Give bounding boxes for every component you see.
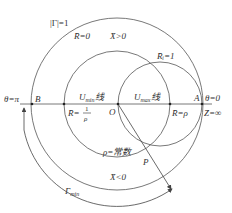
label-rho-constant: ρ=常数 [102,147,132,157]
label-z-inf: Z̄=∞ [204,108,222,118]
label-point-p: P [142,157,149,167]
label-x-neg: X̄<0 [109,172,127,182]
diagram-canvas: |Γ|=1 R̄=0 X̄>0 R̄ᵢ=1 θ=π B Umin线 Umax线 … [0,0,232,213]
label-point-o: O [109,107,116,117]
label-r-inv-den: ρ [83,115,88,123]
point-a-dot [201,103,204,106]
label-r-zero: R̄=0 [73,31,91,41]
label-gamma-min: Γmin [64,186,79,197]
label-gamma-unit: |Γ|=1 [50,18,68,28]
label-r-one: R̄ᵢ=1 [156,51,175,61]
label-u-max: Umax线 [134,92,161,103]
label-point-b: B [35,94,41,104]
point-b-dot [31,103,34,106]
point-rho-dot [169,103,172,106]
label-u-min: Umin线 [79,92,105,103]
label-point-a: A [193,93,200,103]
label-theta-pi: θ=π [4,94,19,104]
label-r-inv-rho: R̄= [67,108,80,118]
label-r-rho: R̄=ρ [171,108,189,118]
point-inv-rho-dot [63,103,66,106]
smith-chart-diagram: |Γ|=1 R̄=0 X̄>0 R̄ᵢ=1 θ=π B Umin线 Umax线 … [0,0,232,213]
point-o-dot [117,103,120,106]
label-x-pos: X̄>0 [109,31,127,41]
label-r-inv-num: 1 [85,105,89,113]
label-theta-zero: θ=0 [205,93,220,103]
gamma-min-arc [24,130,172,206]
